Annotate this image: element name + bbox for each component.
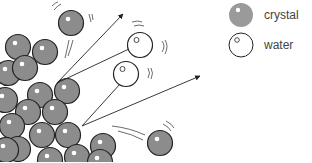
legend-label-water: water <box>263 38 293 52</box>
crystal-icon <box>229 3 253 27</box>
legend-item-water: water <box>229 33 293 57</box>
free-crystal-particle <box>148 131 173 156</box>
water-molecule <box>128 33 153 58</box>
crystal-particle <box>56 123 81 148</box>
crystal-particle <box>0 114 25 139</box>
free-crystal-particle <box>59 11 84 36</box>
crystal-particle <box>13 56 38 81</box>
crystal-lattice <box>0 35 116 163</box>
water-molecules <box>114 33 153 87</box>
crystal-particle <box>38 148 63 163</box>
legend: crystal water <box>229 3 299 57</box>
crystal-particle <box>33 40 58 65</box>
crystal-particle <box>0 88 18 113</box>
water-molecule <box>114 62 139 87</box>
crystal-particle <box>43 100 68 125</box>
crystal-particle <box>30 123 55 148</box>
water-icon <box>229 33 253 57</box>
dissolution-diagram: crystal water <box>0 0 312 162</box>
legend-label-crystal: crystal <box>264 8 299 22</box>
legend-item-crystal: crystal <box>229 3 299 27</box>
